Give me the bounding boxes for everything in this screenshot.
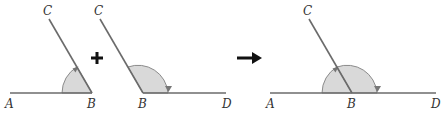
- label-d: D: [221, 97, 232, 111]
- label-c: C: [94, 4, 103, 18]
- label-a: A: [265, 97, 275, 111]
- label-c: C: [43, 4, 52, 18]
- plus-operator: [91, 52, 103, 64]
- figure-straight-angle-abd: A B C D: [265, 4, 441, 111]
- angle-abc-sector: [62, 67, 92, 93]
- label-c: C: [303, 4, 312, 18]
- figure-angle-abc: A B C: [4, 4, 96, 111]
- label-b: B: [137, 97, 147, 111]
- angle-addition-diagram: A B C B C D A B C D: [0, 0, 442, 120]
- figure-angle-cbd: B C D: [94, 4, 232, 111]
- label-d: D: [430, 97, 441, 111]
- label-a: A: [4, 97, 14, 111]
- ray-bc: [100, 19, 143, 93]
- right-arrow-icon: [237, 52, 262, 64]
- label-b: B: [346, 97, 356, 111]
- angle-cbd-sector: [128, 65, 168, 93]
- label-b: B: [86, 97, 96, 111]
